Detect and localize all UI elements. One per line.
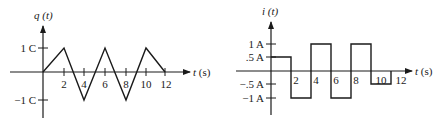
x-tick-label: 12 (396, 74, 407, 86)
x-tick-label: 8 (123, 78, 129, 90)
y-tick-label-pos: 1 C (20, 42, 36, 54)
y-tick-label-one: 1 A (248, 38, 264, 50)
x-axis-label: t (s) (415, 65, 433, 78)
x-tick-label: 2 (293, 74, 299, 86)
figure: q (t) 1 C −1 C 2 4 6 8 10 12 t (s) i (t)… (0, 0, 446, 125)
x-tick-label: 10 (376, 74, 388, 86)
charge-waveform (43, 48, 165, 100)
x-tick-label: 2 (61, 78, 67, 90)
y-tick-label-neg-one: −1 A (242, 92, 264, 104)
x-tick-label: 4 (81, 78, 87, 90)
charge-chart: q (t) 1 C −1 C 2 4 6 8 10 12 t (s) (10, 9, 211, 118)
y-tick-label-half: .5 A (246, 51, 264, 63)
current-chart: i (t) 1 A .5 A −.5 A −1 A 2 4 6 8 10 12 … (236, 5, 433, 115)
x-tick-label: 6 (333, 74, 339, 86)
y-tick-label-neg-half: −.5 A (239, 78, 264, 90)
x-tick-label: 12 (161, 78, 172, 90)
x-tick-label: 4 (313, 74, 319, 86)
x-tick-label: 8 (353, 74, 359, 86)
x-tick-label: 6 (102, 78, 108, 90)
x-tick-label: 10 (141, 78, 153, 90)
y-axis-label: i (t) (262, 5, 279, 18)
x-axis-label: t (s) (193, 66, 211, 79)
y-tick-label-neg: −1 C (14, 94, 36, 106)
y-axis-label: q (t) (34, 9, 53, 22)
